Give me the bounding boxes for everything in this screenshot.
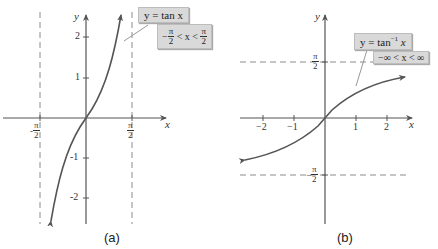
x-tick-label: 1 — [353, 121, 358, 132]
y-tick-label: -2 — [70, 191, 78, 202]
x-tick-label: −1 — [287, 121, 298, 132]
x-tick-label-neg-pi-half: -π2 — [30, 121, 40, 140]
x-tick-label-pi-half: π2 — [127, 121, 134, 140]
x-axis-label: x — [409, 118, 414, 130]
function-label-tan: y = tan x — [138, 7, 189, 23]
x-tick-label: 2 — [384, 121, 389, 132]
caption-b: (b) — [337, 230, 353, 245]
function-label-arctan: y = tan−1 x — [354, 33, 412, 50]
x-axis-label: x — [165, 118, 170, 130]
y-tick-label: -1 — [70, 151, 78, 162]
panel-a — [3, 12, 166, 224]
caption-a: (a) — [104, 230, 120, 245]
y-axis-label: y — [315, 10, 320, 22]
y-tick-label: 1 — [75, 71, 80, 82]
y-axis-label: y — [74, 10, 79, 22]
y-tick-label-pi-half: π2 — [312, 52, 319, 71]
x-tick-label: −2 — [256, 121, 267, 132]
domain-label-tan: −π2 < x < π2 — [157, 24, 212, 49]
domain-label-arctan: −∞ < x < ∞ — [373, 51, 429, 64]
y-tick-label: 2 — [75, 30, 80, 41]
y-tick-label-neg-pi-half: −π2 — [306, 165, 318, 184]
